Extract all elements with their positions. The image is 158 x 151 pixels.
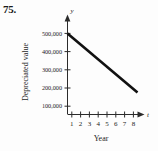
y-axis-ticks: 100,000 200,000 300,000 400,000 500,000 xyxy=(42,30,71,110)
x-tick-label: 5 xyxy=(105,120,109,128)
y-axis: y xyxy=(65,7,75,114)
y-axis-title: Depreciated value xyxy=(21,43,30,101)
depreciation-line-chart: y t 100,000 200,000 300,000 400,000 500,… xyxy=(0,0,158,151)
x-tick-label: 7 xyxy=(123,120,127,128)
x-tick-label: 1 xyxy=(70,120,74,128)
x-axis-title: Year xyxy=(94,134,109,143)
x-axis-ticks: 1 2 3 4 5 6 7 8 xyxy=(70,112,136,129)
y-axis-variable-label: y xyxy=(70,7,75,15)
x-tick-label: 8 xyxy=(132,120,136,128)
x-axis-variable-label: t xyxy=(147,111,150,119)
x-tick-label: 4 xyxy=(96,120,100,128)
x-tick-label: 2 xyxy=(79,120,83,128)
y-tick-label: 500,000 xyxy=(42,30,62,37)
x-tick-label: 6 xyxy=(114,120,118,128)
depreciation-line-series xyxy=(68,33,138,92)
y-tick-label: 400,000 xyxy=(42,48,62,55)
x-axis-arrow-icon xyxy=(138,112,145,118)
y-axis-arrow-icon xyxy=(65,15,71,22)
y-tick-label: 300,000 xyxy=(42,66,62,73)
y-tick-label: 200,000 xyxy=(42,84,62,91)
figure-container: 75. y t 100,000 200,000 300,000 400,000 … xyxy=(0,0,158,151)
y-tick-label: 100,000 xyxy=(42,102,62,109)
x-tick-label: 3 xyxy=(88,120,92,128)
x-axis: t xyxy=(68,111,151,119)
